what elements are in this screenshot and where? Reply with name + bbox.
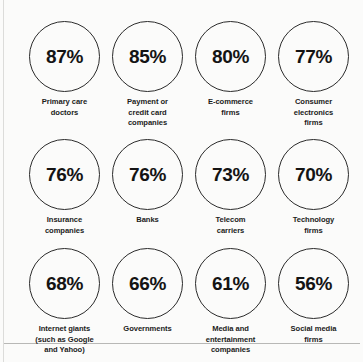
stat-item-internet-giants: 68% Internet giants (such as Google and …: [23, 248, 106, 356]
stat-label: Payment or credit card companies: [106, 97, 189, 129]
stat-item-insurance-companies: 76% Insurance companies: [23, 139, 106, 236]
stat-item-governments: 66% Governments: [106, 248, 189, 335]
stat-bubble: 68%: [29, 248, 100, 319]
stat-bubble: 80%: [195, 21, 266, 92]
stat-label: Technology firms: [272, 215, 355, 236]
stat-bubble: 77%: [278, 21, 349, 92]
stat-value: 68%: [46, 274, 83, 293]
stat-value: 66%: [129, 274, 166, 293]
stat-bubble: 70%: [278, 139, 349, 210]
stat-label: Governments: [106, 324, 189, 335]
stat-item-primary-care-doctors: 87% Primary care doctors: [23, 21, 106, 118]
stat-label: Internet giants (such as Google and Yaho…: [23, 324, 106, 356]
stat-value: 73%: [212, 165, 249, 184]
stat-bubble: 66%: [112, 248, 183, 319]
stat-bubble: 73%: [195, 139, 266, 210]
stat-label: Telecom carriers: [189, 215, 272, 236]
stat-value: 70%: [295, 165, 332, 184]
stat-value: 56%: [295, 274, 332, 293]
stat-label: Primary care doctors: [23, 97, 106, 118]
stat-item-consumer-electronics-firms: 77% Consumer electronics firms: [272, 21, 355, 129]
stat-label: Consumer electronics firms: [272, 97, 355, 129]
stat-bubble: 87%: [29, 21, 100, 92]
stat-item-banks: 76% Banks: [106, 139, 189, 226]
stat-value: 61%: [212, 274, 249, 293]
stat-value: 76%: [46, 165, 83, 184]
stat-value: 87%: [46, 47, 83, 66]
stat-item-technology-firms: 70% Technology firms: [272, 139, 355, 236]
stat-item-payment-credit-card-companies: 85% Payment or credit card companies: [106, 21, 189, 129]
stat-value: 80%: [212, 47, 249, 66]
stat-label: Social media firms: [272, 324, 355, 345]
stat-bubble: 56%: [278, 248, 349, 319]
stat-bubble: 76%: [29, 139, 100, 210]
stat-bubble: 61%: [195, 248, 266, 319]
stat-bubble: 76%: [112, 139, 183, 210]
stat-label: E-commerce firms: [189, 97, 272, 118]
stat-item-ecommerce-firms: 80% E-commerce firms: [189, 21, 272, 118]
stat-item-social-media-firms: 56% Social media firms: [272, 248, 355, 345]
stat-value: 77%: [295, 47, 332, 66]
stat-label: Media and entertainment companies: [189, 324, 272, 356]
stat-item-telecom-carriers: 73% Telecom carriers: [189, 139, 272, 236]
stat-item-media-entertainment-companies: 61% Media and entertainment companies: [189, 248, 272, 356]
stat-value: 85%: [129, 47, 166, 66]
percentage-bubble-grid: 87% Primary care doctors 85% Payment or …: [0, 0, 363, 362]
stat-label: Banks: [106, 215, 189, 226]
stat-label: Insurance companies: [23, 215, 106, 236]
stat-bubble: 85%: [112, 21, 183, 92]
stat-value: 76%: [129, 165, 166, 184]
